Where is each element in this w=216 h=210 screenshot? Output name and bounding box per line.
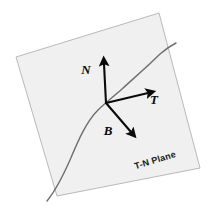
- normal-vector-label: N: [80, 62, 91, 77]
- binormal-vector-label: B: [103, 123, 113, 138]
- diagram-root: N T B T-N Plane: [0, 0, 216, 210]
- tnb-frame-diagram: N T B T-N Plane: [0, 0, 216, 210]
- tangent-vector-label: T: [150, 92, 159, 107]
